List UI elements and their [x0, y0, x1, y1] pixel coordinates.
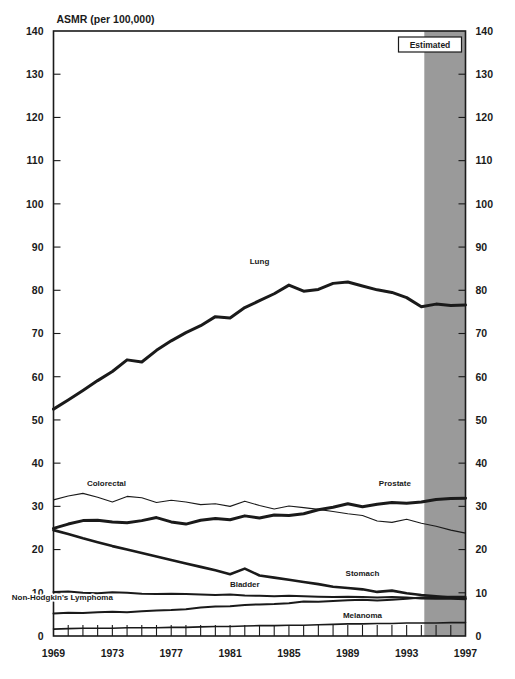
y-tick-label-right: 140 — [476, 25, 494, 37]
x-tick-label: 1989 — [336, 647, 360, 659]
series-line-colorectal — [54, 493, 466, 533]
series-label-lung: Lung — [250, 257, 270, 266]
chart-container: 0010102020303040405050606070708080909010… — [0, 0, 515, 679]
y-tick-label-left: 40 — [32, 457, 44, 469]
y-tick-label-right: 40 — [476, 457, 488, 469]
chart-title: ASMR (per 100,000) — [57, 13, 155, 25]
series-labels-group: LungLungColorectalColorectalProstatePros… — [12, 257, 412, 620]
series-line-lung — [54, 282, 466, 409]
y-tick-label-right: 130 — [476, 68, 494, 80]
x-tick-label: 1997 — [454, 647, 478, 659]
y-tick-label-right: 50 — [476, 414, 488, 426]
y-tick-label-right: 100 — [476, 198, 494, 210]
y-tick-label-left: 100 — [26, 198, 44, 210]
y-tick-label-left: 90 — [32, 241, 44, 253]
x-tick-label: 1985 — [277, 647, 301, 659]
y-tick-label-left: 0 — [38, 630, 44, 642]
series-label-colorectal: Colorectal — [87, 479, 126, 488]
y-tick-label-left: 50 — [32, 414, 44, 426]
x-tick-label: 1981 — [218, 647, 242, 659]
y-tick-label-left: 120 — [26, 111, 44, 123]
y-tick-label-left: 70 — [32, 327, 44, 339]
series-label-stomach: Stomach — [346, 569, 380, 578]
series-label-non-hodgkin-s-lymphoma: Non-Hodgkin's Lymphoma — [12, 593, 114, 602]
series-group — [54, 282, 466, 629]
y-tick-label-left: 80 — [32, 284, 44, 296]
series-label-melanoma: Melanoma — [343, 611, 383, 620]
x-axis-group: 19691973197719811985198919931997 — [42, 625, 478, 659]
y-tick-label-left: 60 — [32, 371, 44, 383]
x-tick-label: 1977 — [160, 647, 184, 659]
y-axis-group: 0010102020303040405050606070708080909010… — [26, 25, 493, 642]
y-tick-label-right: 90 — [476, 241, 488, 253]
y-tick-label-right: 80 — [476, 284, 488, 296]
series-line-prostate — [54, 498, 466, 528]
y-tick-label-left: 110 — [27, 154, 44, 166]
y-tick-label-right: 70 — [476, 327, 488, 339]
y-tick-label-right: 30 — [476, 500, 488, 512]
x-tick-label: 1969 — [42, 647, 66, 659]
chart-svg: 0010102020303040405050606070708080909010… — [0, 0, 515, 679]
y-tick-label-left: 130 — [26, 68, 44, 80]
y-tick-label-right: 110 — [476, 154, 493, 166]
series-label-bladder: Bladder — [230, 580, 260, 589]
y-tick-label-right: 0 — [476, 630, 482, 642]
y-tick-label-left: 20 — [32, 543, 44, 555]
y-tick-label-left: 140 — [26, 25, 44, 37]
x-tick-label: 1993 — [395, 647, 419, 659]
y-tick-label-right: 20 — [476, 543, 488, 555]
y-tick-label-right: 10 — [476, 587, 488, 599]
y-tick-label-left: 30 — [32, 500, 44, 512]
series-line-non-hodgkin-s-lymphoma — [54, 597, 466, 614]
y-tick-label-right: 120 — [476, 111, 494, 123]
y-tick-label-right: 60 — [476, 371, 488, 383]
plot-frame — [54, 31, 466, 636]
x-tick-label: 1973 — [101, 647, 125, 659]
series-label-prostate: Prostate — [379, 479, 412, 488]
estimated-label-text: Estimated — [410, 40, 451, 50]
